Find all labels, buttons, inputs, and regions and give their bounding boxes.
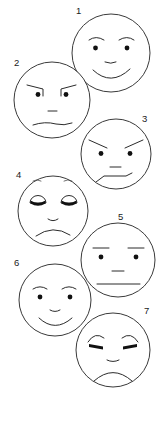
face-4-outline (18, 176, 88, 246)
face-3-outline (81, 119, 151, 189)
face-expressions-sheet: 1 2 3 4 5 6 7 (0, 0, 165, 422)
face-4-group (18, 176, 88, 246)
face-2-eye-left (36, 92, 41, 97)
face-1-eye-left (93, 46, 98, 51)
face-6-eye-left (38, 295, 43, 300)
face-5-group (81, 223, 155, 297)
face-7-group (76, 313, 150, 387)
face-5-number-label: 5 (118, 211, 123, 222)
face-3-eye-right (128, 151, 133, 156)
face-3-group (81, 119, 151, 189)
face-7-number-label: 7 (144, 305, 149, 316)
face-6-group (19, 264, 91, 336)
face-1-number-label: 1 (76, 5, 81, 16)
face-4-number-label: 4 (16, 169, 21, 180)
face-7-outline (76, 313, 150, 387)
face-2-group (14, 62, 90, 138)
face-3-eye-left (99, 151, 104, 156)
face-6-eye-right (68, 295, 73, 300)
face-5-outline (81, 223, 155, 297)
face-2-outline (14, 62, 90, 138)
face-5-eye-left (99, 255, 104, 260)
face-2-number-label: 2 (14, 57, 19, 68)
face-3-number-label: 3 (142, 113, 147, 124)
face-6-number-label: 6 (14, 257, 19, 268)
face-1-eye-right (125, 46, 130, 51)
face-2-eye-right (64, 92, 69, 97)
face-5-eye-right (134, 255, 139, 260)
faces-drawing: 1 2 3 4 5 6 7 (0, 0, 165, 422)
